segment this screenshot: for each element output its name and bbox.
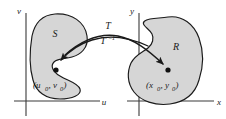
point-uv0-label-mid: , v <box>49 80 58 90</box>
x-axis-label: x <box>216 97 221 107</box>
transformation-diagram: v u y x S R T T −1 (u 0 , v 0 ) (x 0 , y… <box>0 0 226 119</box>
forward-map-label: T <box>105 20 112 31</box>
point-xy0-dot <box>165 67 170 72</box>
diagram-canvas: v u y x S R T T −1 (u 0 , v 0 ) (x 0 , y… <box>0 0 226 119</box>
inverse-map-exponent: −1 <box>108 35 115 41</box>
point-uv0-label-open: (u <box>33 80 41 90</box>
point-uv0-dot <box>53 67 58 72</box>
point-uv0-label-close: ) <box>63 80 67 90</box>
point-xy0-label-close: ) <box>175 80 179 90</box>
region-r-label: R <box>172 41 179 52</box>
point-xy0-label-mid: , y <box>161 80 170 90</box>
region-s-label: S <box>53 28 58 39</box>
u-axis-label: u <box>102 97 107 107</box>
y-axis-label: y <box>129 6 134 16</box>
v-axis-label: v <box>17 6 21 16</box>
point-xy0-label-open: (x <box>146 80 153 90</box>
inverse-map-label-group: T −1 <box>100 35 115 47</box>
